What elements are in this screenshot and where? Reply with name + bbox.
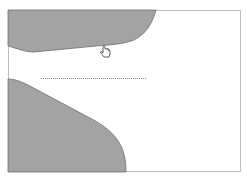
drawing-canvas[interactable] [0, 0, 247, 176]
drawing-stage [0, 0, 247, 176]
